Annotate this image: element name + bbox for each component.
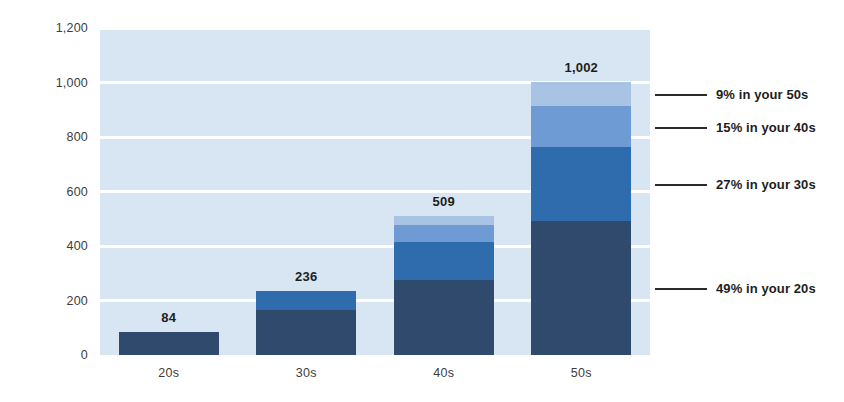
y-axis-tick-label: 1,200 xyxy=(26,21,88,35)
bar-segment-50s-0[interactable] xyxy=(531,221,631,355)
bar-segment-30s-0[interactable] xyxy=(256,310,356,355)
gridline xyxy=(100,27,650,30)
bar-total-label-20s: 84 xyxy=(119,310,219,325)
bar-segment-50s-1[interactable] xyxy=(531,147,631,221)
bar-total-label-50s: 1,002 xyxy=(531,60,631,75)
y-axis-tick-label: 200 xyxy=(26,294,88,308)
y-axis-tick-label: 1,000 xyxy=(26,76,88,90)
y-axis-tick-label: 400 xyxy=(26,239,88,253)
bar-50s[interactable] xyxy=(531,82,631,355)
bar-20s[interactable] xyxy=(119,332,219,355)
leader-line xyxy=(655,127,707,129)
callout-label: 9% in your 50s xyxy=(716,87,808,102)
bar-40s[interactable] xyxy=(394,216,494,355)
x-axis-tick-label-50s: 50s xyxy=(531,366,631,380)
bar-segment-40s-2[interactable] xyxy=(394,225,494,241)
bar-segment-40s-0[interactable] xyxy=(394,280,494,355)
y-axis-tick-label: 0 xyxy=(26,348,88,362)
leader-line xyxy=(655,288,707,290)
y-axis-tick-label: 800 xyxy=(26,130,88,144)
leader-line xyxy=(655,184,707,186)
bar-segment-50s-2[interactable] xyxy=(531,106,631,147)
callout-label: 15% in your 40s xyxy=(716,119,816,134)
x-axis-tick-label-20s: 20s xyxy=(119,366,219,380)
y-axis: 02004006008001,0001,200 xyxy=(0,0,88,402)
leader-line xyxy=(655,94,707,96)
x-axis-tick-label-30s: 30s xyxy=(256,366,356,380)
callout-label: 49% in your 20s xyxy=(716,281,816,296)
bar-total-label-40s: 509 xyxy=(394,194,494,209)
x-axis-tick-label-40s: 40s xyxy=(394,366,494,380)
bar-segment-30s-1[interactable] xyxy=(256,291,356,310)
x-axis-baseline xyxy=(100,355,650,358)
bar-segment-40s-1[interactable] xyxy=(394,242,494,280)
bar-segment-40s-3[interactable] xyxy=(394,216,494,225)
bar-30s[interactable] xyxy=(256,291,356,355)
bar-segment-20s-0[interactable] xyxy=(119,332,219,355)
bar-total-label-30s: 236 xyxy=(256,269,356,284)
bar-segment-50s-3[interactable] xyxy=(531,82,631,107)
y-axis-tick-label: 600 xyxy=(26,185,88,199)
stacked-bar-chart: 02004006008001,0001,200 8420s23630s50940… xyxy=(0,0,844,402)
callout-label: 27% in your 30s xyxy=(716,177,816,192)
